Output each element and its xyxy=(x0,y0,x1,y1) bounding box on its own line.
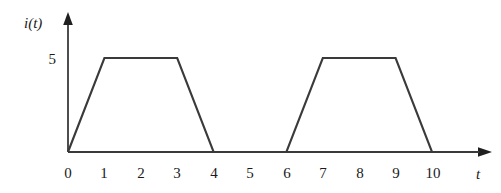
y-axis-arrow-icon xyxy=(63,12,73,25)
y-axis xyxy=(63,12,73,152)
x-tick-label-4: 4 xyxy=(210,166,218,181)
current-waveform xyxy=(68,58,479,152)
x-axis-title: t xyxy=(476,167,480,182)
x-tick-label-1: 1 xyxy=(100,166,108,181)
x-tick-label-6: 6 xyxy=(283,166,291,181)
x-tick-label-3: 3 xyxy=(173,166,181,181)
x-tick-label-5: 5 xyxy=(246,166,254,181)
y-axis-title: i(t) xyxy=(24,16,42,31)
x-tick-label-9: 9 xyxy=(392,166,400,181)
y-tick-label-5: 5 xyxy=(49,52,57,67)
x-axis-arrow-icon xyxy=(478,147,492,157)
x-tick-label-7: 7 xyxy=(319,166,327,181)
x-tick-label-2: 2 xyxy=(137,166,145,181)
x-tick-label-8: 8 xyxy=(356,166,364,181)
waveform-figure: i(t) t 5 0 1 2 3 4 5 6 7 8 9 10 xyxy=(0,0,501,193)
x-tick-label-10: 10 xyxy=(426,166,441,181)
x-tick-label-0: 0 xyxy=(64,166,72,181)
